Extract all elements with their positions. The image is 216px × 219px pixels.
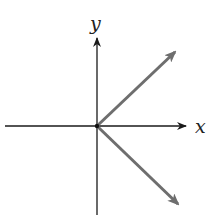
origin-point — [95, 124, 99, 128]
y-axis-label: y — [89, 12, 101, 34]
coordinate-diagram: x y — [0, 0, 216, 219]
upper-vector — [97, 52, 175, 126]
x-axis-label: x — [195, 115, 206, 137]
lower-vector — [97, 126, 178, 204]
